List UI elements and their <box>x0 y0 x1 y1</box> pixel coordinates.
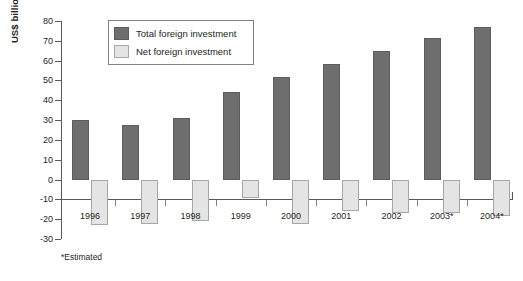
legend-swatch-net-icon <box>114 45 129 58</box>
x-axis-label-1997: 1997 <box>130 211 150 221</box>
axis-right-cap <box>512 192 513 200</box>
y-axis-title: US$ billion <box>6 0 24 78</box>
x-axis-label-2003: 2003* <box>430 211 454 221</box>
y-tick-mark <box>55 199 61 200</box>
minor-tick <box>467 200 468 206</box>
y-tick-mark <box>55 219 61 220</box>
y-tick-label: 30 <box>25 115 53 125</box>
legend-item-net: Net foreign investment <box>114 43 248 60</box>
minor-tick <box>316 200 317 206</box>
minor-tick <box>366 200 367 206</box>
bar-total-2001 <box>323 64 340 180</box>
bar-net-2002 <box>392 180 409 214</box>
x-axis-label-2000: 2000 <box>281 211 301 221</box>
bar-total-1996 <box>72 120 89 179</box>
bar-net-2001 <box>342 180 359 212</box>
y-tick-label: 80 <box>25 16 53 26</box>
x-axis-label-1999: 1999 <box>231 211 251 221</box>
y-tick-label: 0 <box>25 175 53 185</box>
y-tick-label: -10 <box>25 194 53 204</box>
x-axis-label-1996: 1996 <box>80 211 100 221</box>
y-axis-line <box>61 21 62 239</box>
y-tick-label: -30 <box>25 234 53 244</box>
minor-tick <box>216 200 217 206</box>
x-axis-label-2002: 2002 <box>381 211 401 221</box>
legend-label-total: Total foreign investment <box>136 28 236 39</box>
y-tick-label: 50 <box>25 75 53 85</box>
y-tick-label: 70 <box>25 36 53 46</box>
y-tick-mark <box>55 239 61 240</box>
x-axis-label-2001: 2001 <box>331 211 351 221</box>
y-tick-label: 60 <box>25 56 53 66</box>
y-tick-label: 10 <box>25 155 53 165</box>
minor-tick <box>165 200 166 206</box>
y-tick-mark <box>55 100 61 101</box>
bar-total-2000 <box>273 77 290 179</box>
y-tick-mark <box>55 160 61 161</box>
bar-net-1999 <box>242 180 259 199</box>
minor-tick <box>115 200 116 206</box>
legend-label-net: Net foreign investment <box>136 46 231 57</box>
y-tick-label: 20 <box>25 135 53 145</box>
y-tick-mark <box>55 80 61 81</box>
y-tick-mark <box>55 21 61 22</box>
y-tick-mark <box>55 41 61 42</box>
y-tick-mark <box>55 61 61 62</box>
bar-chart: US$ billion 80706050403020100-10-20-30 1… <box>0 0 523 281</box>
bar-total-2004 <box>474 27 491 180</box>
y-tick-mark <box>55 180 61 181</box>
x-axis-label-2004: 2004* <box>480 211 504 221</box>
bar-total-2003 <box>424 38 441 180</box>
chart-legend: Total foreign investment Net foreign inv… <box>108 20 254 65</box>
bar-total-1998 <box>173 118 190 179</box>
y-tick-label: 40 <box>25 95 53 105</box>
y-tick-label: -20 <box>25 214 53 224</box>
y-tick-mark <box>55 140 61 141</box>
footnote-estimated: *Estimated <box>61 252 102 262</box>
bar-net-2003 <box>443 180 460 214</box>
bar-total-2002 <box>373 51 390 180</box>
y-tick-mark <box>55 120 61 121</box>
legend-item-total: Total foreign investment <box>114 25 248 42</box>
minor-tick <box>417 200 418 206</box>
bar-total-1997 <box>122 125 139 180</box>
minor-tick <box>266 200 267 206</box>
bar-total-1999 <box>223 92 240 179</box>
legend-swatch-total-icon <box>114 27 129 40</box>
x-axis-label-1998: 1998 <box>181 211 201 221</box>
